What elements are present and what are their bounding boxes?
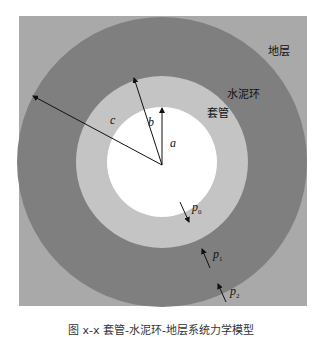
label-cement: 水泥环 [227, 88, 260, 101]
label-casing: 套管 [207, 106, 229, 120]
label-b: b [148, 115, 154, 129]
label-a: a [170, 136, 176, 150]
figure-caption: 图 x-x 套管-水泥环-地层系统力学模型 [0, 321, 322, 337]
label-c: c [110, 113, 116, 127]
label-formation: 地层 [268, 45, 290, 58]
